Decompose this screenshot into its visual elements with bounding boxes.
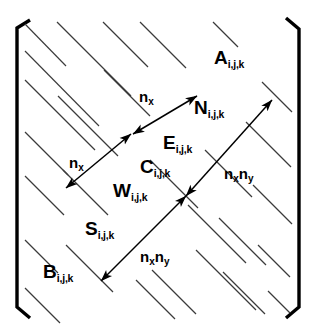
distance-label-nxny-bottom: nxny [140,249,169,264]
stencil-label-N: Ni,j,k [194,98,224,117]
left-matrix-bracket [17,20,30,318]
banded-matrix-figure: Ai,j,k Ni,j,k Ei,j,k Ci,j,k Wi,j,k Si,j,… [0,0,323,336]
distance-label-nx-left: nx [69,155,84,170]
stencil-label-A: Ai,j,k [214,48,244,67]
distance-label-nxny-right: nxny [224,166,253,181]
stencil-label-C: Ci,j,k [140,157,170,176]
stencil-label-E: Ei,j,k [163,133,192,152]
stencil-label-B: Bi,j,k [43,262,73,281]
distance-label-nx-top: nx [139,89,154,104]
stencil-label-S: Si,j,k [85,219,114,238]
right-matrix-bracket [286,18,299,318]
stencil-label-W: Wi,j,k [113,181,147,200]
